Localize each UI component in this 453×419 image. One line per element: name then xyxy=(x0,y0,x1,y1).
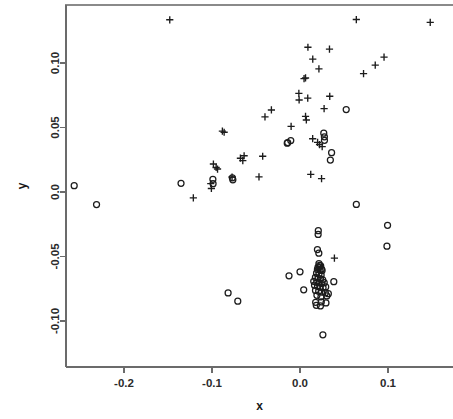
data-point-circle xyxy=(178,180,184,186)
x-tick-label: 0.0 xyxy=(292,377,308,389)
x-tick-label: -0.1 xyxy=(202,377,222,389)
data-point-circle xyxy=(320,332,326,338)
data-point-circle xyxy=(329,150,335,156)
data-point-plus xyxy=(303,116,310,123)
data-point-plus xyxy=(380,53,387,60)
axis-titles: xy xyxy=(15,182,263,413)
data-point-plus xyxy=(321,105,328,112)
data-point-plus xyxy=(309,56,316,63)
y-axis: 0.100.050.0-0.05-0.10 xyxy=(49,5,66,367)
data-point-circle xyxy=(385,222,391,228)
y-axis-title: y xyxy=(15,182,29,189)
data-point-plus xyxy=(219,128,226,135)
data-point-plus xyxy=(360,70,367,77)
data-points xyxy=(71,16,434,338)
y-tick-label: 0.05 xyxy=(49,116,61,139)
data-point-circle xyxy=(225,290,231,296)
chart-canvas: -0.2-0.10.00.1 0.100.050.0-0.05-0.10 xy xyxy=(0,0,453,419)
data-point-plus xyxy=(372,62,379,69)
data-point-plus xyxy=(326,93,333,100)
data-point-plus xyxy=(353,16,360,23)
data-point-circle xyxy=(71,183,77,189)
x-tick-label: 0.1 xyxy=(380,377,397,389)
data-point-plus xyxy=(302,74,309,81)
data-point-circle xyxy=(297,269,303,275)
data-point-plus xyxy=(331,255,338,262)
data-point-circle xyxy=(331,279,337,285)
data-point-plus xyxy=(307,171,314,178)
data-point-plus xyxy=(318,175,325,182)
plot-frame xyxy=(66,5,453,367)
data-point-plus xyxy=(166,16,173,23)
data-point-circle xyxy=(317,303,323,309)
data-point-circle xyxy=(315,231,321,237)
data-point-circle xyxy=(353,201,359,207)
y-tick-label: -0.10 xyxy=(49,308,61,334)
x-axis: -0.2-0.10.00.1 xyxy=(66,367,453,389)
data-point-plus xyxy=(427,19,434,26)
data-point-plus xyxy=(295,90,302,97)
data-point-circle xyxy=(301,287,307,293)
data-point-plus xyxy=(326,45,333,52)
data-point-plus xyxy=(214,165,221,172)
data-point-circle xyxy=(314,247,320,253)
data-point-plus xyxy=(190,194,197,201)
data-point-plus xyxy=(221,129,228,136)
data-point-plus xyxy=(261,113,268,120)
data-point-circle xyxy=(94,202,100,208)
series-circle xyxy=(71,107,390,338)
data-point-plus xyxy=(309,135,316,142)
data-point-plus xyxy=(304,44,311,51)
y-tick-label: 0.10 xyxy=(49,52,61,74)
series-plus xyxy=(166,16,434,262)
data-point-circle xyxy=(343,107,349,113)
data-point-circle xyxy=(384,243,390,249)
data-point-circle xyxy=(235,298,241,304)
data-point-plus xyxy=(302,113,309,120)
data-point-plus xyxy=(255,173,262,180)
data-point-plus xyxy=(304,94,311,101)
plot-border xyxy=(66,5,453,367)
y-tick-label: 0.0 xyxy=(49,184,61,200)
data-point-circle xyxy=(316,250,322,256)
data-point-plus xyxy=(268,106,275,113)
data-point-plus xyxy=(288,123,295,130)
y-tick-label: -0.05 xyxy=(49,243,61,270)
data-point-circle xyxy=(327,157,333,163)
data-point-circle xyxy=(286,273,292,279)
scatter-plot-figure: -0.2-0.10.00.1 0.100.050.0-0.05-0.10 xy xyxy=(0,0,453,419)
x-tick-label: -0.2 xyxy=(114,377,134,389)
data-point-plus xyxy=(296,96,303,103)
x-axis-title: x xyxy=(256,399,263,413)
data-point-plus xyxy=(315,65,322,72)
data-point-plus xyxy=(259,153,266,160)
